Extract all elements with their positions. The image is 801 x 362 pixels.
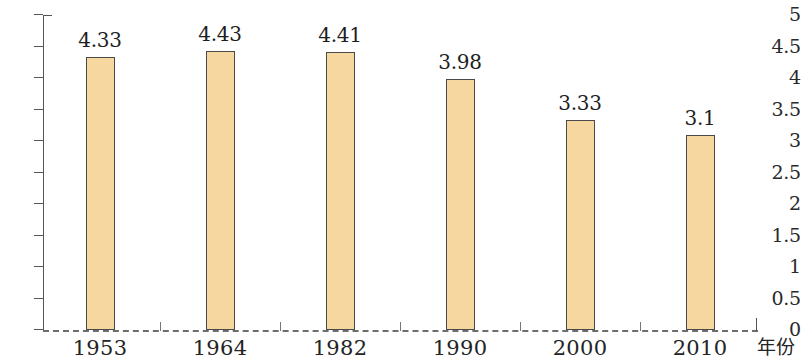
- y-axis-tick-label: 3: [769, 131, 801, 150]
- bar-value-label: 4.41: [297, 25, 383, 45]
- x-axis-category-label: 2010: [645, 337, 755, 359]
- y-axis-tick: [34, 298, 43, 299]
- bar-value-label: 4.43: [177, 24, 263, 44]
- x-axis-category-label: 2000: [525, 337, 635, 359]
- y-axis-tick-label: 1.5: [769, 226, 801, 245]
- y-axis-tick-label: 4: [769, 68, 801, 87]
- y-axis-tick: [34, 266, 43, 267]
- y-axis-tick: [34, 14, 43, 15]
- bar: [326, 52, 355, 330]
- y-axis-tick: [34, 329, 43, 330]
- y-axis-tick: [34, 109, 43, 110]
- y-axis-tick: [34, 140, 43, 141]
- bar: [446, 79, 475, 330]
- y-axis-tick: [34, 203, 43, 204]
- y-axis-tick-label: 2: [769, 194, 801, 213]
- bar: [686, 135, 715, 330]
- bar-chart: 00.511.522.533.544.55 195319641982199020…: [0, 0, 801, 362]
- x-axis-category-label: 1982: [285, 337, 395, 359]
- plot-area: [43, 15, 757, 330]
- y-axis-tick: [34, 172, 43, 173]
- bar-value-label: 3.98: [417, 52, 503, 72]
- y-axis-tick-label: 5: [769, 5, 801, 24]
- y-axis-tick: [34, 46, 43, 47]
- bar-value-label: 4.33: [57, 30, 143, 50]
- y-axis-tick: [34, 77, 43, 78]
- bar-value-label: 3.1: [657, 108, 743, 128]
- y-axis-tick-label: 2.5: [769, 163, 801, 182]
- y-axis-tick-label: 3.5: [769, 100, 801, 119]
- y-axis-tick-label: 4.5: [769, 37, 801, 56]
- x-axis-category-label: 1964: [165, 337, 275, 359]
- y-axis-tick-label: 0.5: [769, 289, 801, 308]
- bar: [86, 57, 115, 330]
- bar: [206, 51, 235, 330]
- x-axis-category-label: 1953: [45, 337, 155, 359]
- bar: [566, 120, 595, 330]
- bar-value-label: 3.33: [537, 93, 623, 113]
- y-axis-tick-label: 1: [769, 257, 801, 276]
- x-axis-category-label: 1990: [405, 337, 515, 359]
- y-axis-tick: [34, 235, 43, 236]
- x-axis-title: 年份: [757, 336, 801, 358]
